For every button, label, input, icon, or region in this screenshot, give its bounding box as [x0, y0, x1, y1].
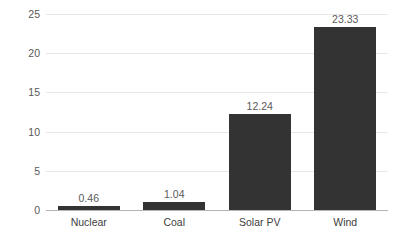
y-axis-tick-label: 5: [6, 166, 40, 176]
bar-group[interactable]: 12.24: [229, 14, 291, 210]
bar[interactable]: [229, 114, 291, 210]
x-axis-tick-label: Wind: [303, 216, 389, 229]
bar-group[interactable]: 0.46: [58, 14, 120, 210]
y-axis-tick-label: 0: [6, 205, 40, 215]
x-axis-tick-label: Coal: [132, 216, 218, 229]
bar[interactable]: [314, 27, 376, 210]
bar-value-label: 1.04: [164, 189, 184, 200]
bar-group[interactable]: 23.33: [314, 14, 376, 210]
axis-baseline: [46, 210, 388, 211]
x-axis: NuclearCoalSolar PVWind: [46, 216, 388, 232]
bar[interactable]: [143, 202, 205, 210]
bar-group[interactable]: 1.04: [143, 14, 205, 210]
y-axis-tick-label: 15: [6, 87, 40, 97]
bar-value-label: 12.24: [247, 101, 273, 112]
y-axis: 0510152025: [0, 14, 40, 210]
y-axis-tick-label: 10: [6, 127, 40, 137]
bar[interactable]: [58, 206, 120, 210]
bar-chart: 0510152025 0.461.0412.2423.33 NuclearCoa…: [0, 0, 400, 240]
y-axis-tick-label: 25: [6, 9, 40, 19]
bars-layer: 0.461.0412.2423.33: [46, 14, 388, 210]
y-axis-tick-label: 20: [6, 48, 40, 58]
bar-value-label: 23.33: [332, 14, 358, 25]
chart-title: [24, 0, 354, 1]
x-axis-tick-label: Nuclear: [46, 216, 132, 229]
x-axis-tick-label: Solar PV: [217, 216, 303, 229]
bar-value-label: 0.46: [79, 193, 99, 204]
